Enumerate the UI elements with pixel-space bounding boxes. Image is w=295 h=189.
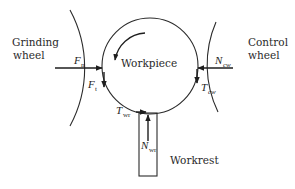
svg-text:wr: wr <box>123 111 131 119</box>
centerless-grinding-diagram: Grinding wheel Control wheel Workpiece W… <box>0 0 295 189</box>
svg-text:N: N <box>214 54 223 66</box>
svg-text:cw: cw <box>208 88 216 96</box>
control-wheel-label-line2: wheel <box>248 49 280 61</box>
workrest-label: Workrest <box>170 154 219 166</box>
svg-text:wr: wr <box>149 146 157 154</box>
svg-text:n: n <box>81 61 85 69</box>
force-fn-label: F n <box>73 54 85 69</box>
force-ncw-label: N cw <box>214 54 231 69</box>
grinding-wheel-label-line1: Grinding <box>12 36 59 48</box>
grinding-wheel-label-line2: wheel <box>13 49 45 61</box>
svg-text:N: N <box>140 139 149 151</box>
svg-text:cw: cw <box>223 61 231 69</box>
force-nwr-label: N wr <box>140 139 157 154</box>
svg-text:T: T <box>201 81 208 93</box>
svg-text:F: F <box>73 54 81 66</box>
control-wheel-arc <box>207 22 218 112</box>
svg-text:T: T <box>116 104 123 116</box>
force-ft-label: F t <box>87 78 97 93</box>
workpiece-label: Workpiece <box>121 57 177 69</box>
svg-text:t: t <box>95 85 97 93</box>
control-wheel-label-line1: Control <box>248 36 289 48</box>
rotation-arrow-icon <box>115 33 145 60</box>
svg-text:F: F <box>87 78 95 90</box>
